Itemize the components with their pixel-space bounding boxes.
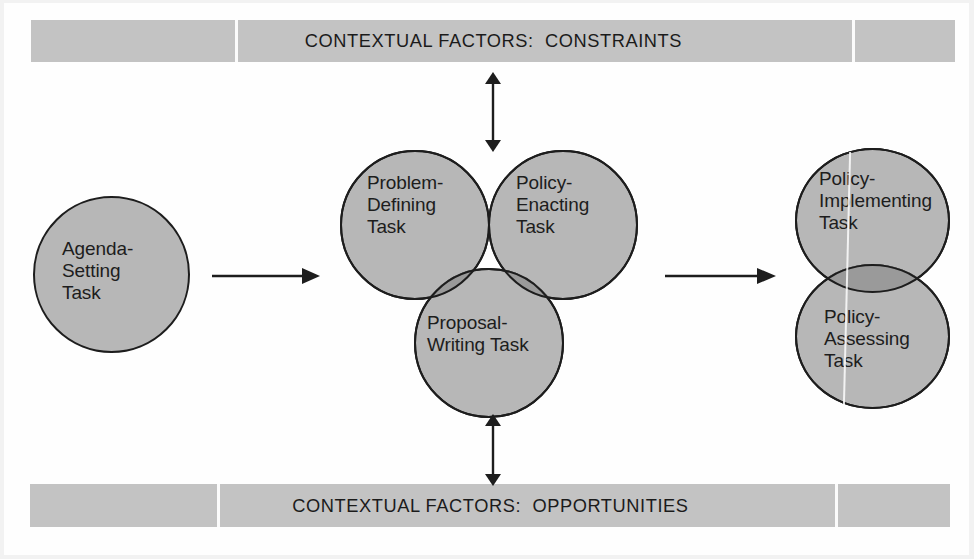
circle-problem-defining-task-label: Problem- Defining Task (367, 172, 443, 239)
banner-bottom-separator-right (835, 484, 838, 527)
arrow-opportunities-link (478, 414, 510, 486)
banner-top-separator-left (235, 20, 238, 62)
arrow-core-to-implementation (663, 258, 781, 294)
banner-constraints: CONTEXTUAL FACTORS: CONSTRAINTS (31, 20, 955, 62)
circle-proposal-writing-task-label: Proposal- Writing Task (427, 312, 529, 356)
page-edge-right (969, 0, 974, 559)
banner-top-separator-right (852, 20, 855, 62)
banner-opportunities-label: CONTEXTUAL FACTORS: OPPORTUNITIES (292, 495, 688, 517)
page-edge-bottom (0, 555, 974, 559)
arrow-agenda-to-core (210, 258, 325, 294)
circle-policy-implementing-task-label: Policy- Implementing Task (819, 168, 932, 235)
circle-policy-assessing-task-label: Policy- Assessing Task (824, 306, 910, 373)
page-edge-top (0, 0, 974, 3)
arrow-constraints-link (478, 72, 510, 152)
circle-agenda-setting-task-label: Agenda- Setting Task (62, 238, 133, 305)
diagram-canvas: CONTEXTUAL FACTORS: CONSTRAINTS CONTEXTU… (0, 0, 974, 559)
circle-policy-enacting-task-label: Policy- Enacting Task (516, 172, 589, 239)
banner-bottom-separator-left (217, 484, 220, 527)
page-edge-left (0, 0, 4, 559)
banner-constraints-label: CONTEXTUAL FACTORS: CONSTRAINTS (304, 30, 681, 52)
banner-opportunities: CONTEXTUAL FACTORS: OPPORTUNITIES (30, 484, 950, 527)
circle-agenda-setting-task[interactable]: Agenda- Setting Task (33, 196, 190, 353)
